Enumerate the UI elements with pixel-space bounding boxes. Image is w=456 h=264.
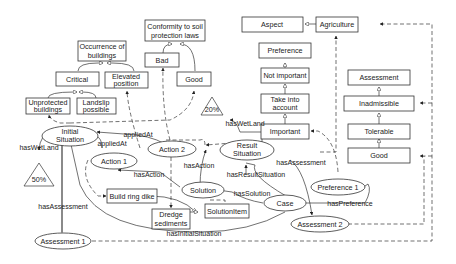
svg-text:buildings: buildings (88, 51, 117, 60)
edge-label-has-action-1: hasAction (184, 162, 215, 169)
svg-text:20%: 20% (205, 105, 220, 114)
edge-label-has-solution: hasSolution (234, 190, 271, 197)
triangle-20-percent: 20% (201, 97, 223, 115)
box-conformity: Conformity to soil protection laws (145, 20, 205, 41)
ellipse-action-2: Action 2 (148, 141, 196, 157)
svg-text:position: position (114, 79, 139, 88)
ellipse-assessment-2: Assessment 2 (291, 216, 349, 232)
box-preference: Preference (259, 43, 311, 58)
svg-text:Tolerable: Tolerable (364, 127, 393, 136)
svg-text:Critical: Critical (66, 75, 88, 84)
box-important: Important (261, 124, 309, 139)
box-tolerable: Tolerable (348, 124, 410, 139)
box-good-conformity: Good (177, 72, 211, 86)
edge-label-has-wet-land-left: hasWetLand (19, 144, 58, 151)
box-unprotected-buildings: Unprotected buildings (26, 98, 70, 114)
edge-label-has-assessment-2: hasAssessment (276, 159, 325, 166)
box-critical: Critical (56, 72, 99, 86)
svg-text:Important: Important (270, 127, 300, 136)
svg-text:Action 1: Action 1 (101, 157, 127, 166)
edge-label-applied-at-1: appliedAt (123, 131, 152, 139)
box-take-into-account: Take into account (261, 94, 309, 113)
svg-text:Case: Case (277, 199, 294, 208)
svg-text:Dredge: Dredge (159, 210, 183, 219)
svg-text:SolutionItem: SolutionItem (207, 207, 247, 216)
box-not-important: Not important (261, 68, 309, 83)
ellipse-solution: Solution (182, 182, 224, 198)
svg-text:Preference: Preference (267, 46, 302, 55)
edge-label-has-wet-land-right: hasWetLand (225, 120, 264, 127)
svg-text:Assessment 2: Assessment 2 (297, 220, 342, 229)
svg-text:Not important: Not important (263, 71, 306, 80)
box-bad: Bad (145, 53, 179, 67)
box-dredge-sediments: Dredge sediments (152, 209, 190, 229)
ellipse-initial-situation: Initial Situation (42, 126, 98, 146)
ellipse-assessment-1: Assessment 1 (35, 233, 91, 249)
box-landslip-possible: Landslip possible (77, 98, 116, 114)
svg-text:Action 2: Action 2 (159, 145, 185, 154)
ellipse-result-situation: Result Situation (220, 140, 274, 160)
box-solution-item: SolutionItem (205, 204, 249, 218)
svg-text:Aspect: Aspect (261, 20, 283, 29)
edge-label-applied-at-2: appliedAt (97, 140, 126, 148)
concept-map-diagram: Conformity to soil protection laws Occur… (0, 0, 456, 264)
box-good-assessment: Good (348, 148, 410, 163)
box-assessment: Assessment (348, 70, 410, 85)
edge-label-has-result-situation: hasResultSituation (227, 171, 285, 178)
box-inadmissible: Inadmissible (344, 96, 414, 111)
box-agriculture: Agriculture (316, 17, 358, 32)
svg-text:Good: Good (370, 151, 388, 160)
svg-text:Bad: Bad (156, 56, 169, 65)
edge-label-has-initial-situation: hasInitialSituation (167, 230, 222, 237)
svg-text:Assessment 1: Assessment 1 (40, 237, 85, 246)
svg-text:Solution: Solution (190, 186, 216, 195)
svg-text:Agriculture: Agriculture (320, 20, 354, 29)
svg-text:protection laws: protection laws (151, 31, 199, 40)
svg-text:account: account (272, 103, 297, 112)
ellipse-case: Case (264, 195, 306, 211)
edge-label-has-preference: hasPreference (327, 200, 373, 207)
box-build-ring-dike: Build ring dike (107, 189, 157, 203)
ellipse-action-1: Action 1 (91, 153, 137, 169)
triangle-50-percent: 50% (24, 163, 54, 186)
ellipse-preference-1: Preference 1 (311, 179, 365, 195)
edge-label-has-action-2: hasAction (134, 171, 165, 178)
svg-text:Occurrence of: Occurrence of (79, 42, 124, 51)
svg-text:buildings: buildings (34, 105, 63, 114)
svg-text:Good: Good (185, 75, 203, 84)
svg-text:Situation: Situation (233, 149, 261, 158)
box-elevated-position: Elevated position (105, 72, 148, 88)
box-occurrence: Occurrence of buildings (78, 41, 126, 61)
box-aspect: Aspect (242, 17, 303, 32)
svg-text:Assessment: Assessment (359, 73, 398, 82)
svg-text:Inadmissible: Inadmissible (359, 99, 399, 108)
svg-text:Build ring dike: Build ring dike (109, 192, 154, 201)
edge-label-has-assessment-1: hasAssessment (38, 203, 87, 210)
svg-text:50%: 50% (32, 175, 47, 184)
svg-text:sediments: sediments (155, 219, 188, 228)
svg-text:Preference 1: Preference 1 (317, 183, 358, 192)
svg-text:possible: possible (83, 105, 109, 114)
svg-text:Conformity to soil: Conformity to soil (147, 22, 203, 31)
svg-text:Situation: Situation (56, 135, 84, 144)
